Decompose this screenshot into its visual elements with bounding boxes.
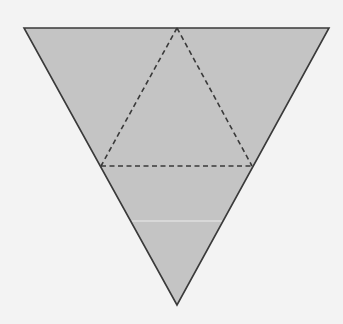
tetrahedron-net-diagram <box>0 0 343 324</box>
